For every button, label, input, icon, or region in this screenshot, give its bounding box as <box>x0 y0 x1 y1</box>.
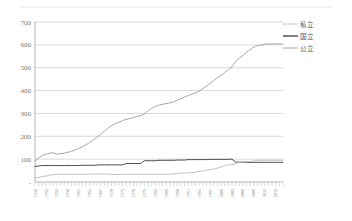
x-axis-tick-label: 1979 <box>142 189 147 197</box>
legend-label-2: 公立 <box>300 44 314 52</box>
y-axis-tick-label: 600 <box>21 41 32 49</box>
legend-label-0: 私立 <box>300 20 314 29</box>
x-axis-tick-label: 1988 <box>175 189 180 197</box>
x-axis-tick-label: 2009 <box>251 189 256 197</box>
x-axis-tick-label: 1961 <box>76 189 81 197</box>
x-axis-tick-label: 1952 <box>44 189 49 197</box>
y-axis-tick-label: 700 <box>21 19 32 27</box>
x-axis-tick-label: 1985 <box>164 189 169 197</box>
x-axis-tick-label: 1994 <box>197 189 202 197</box>
x-axis-tick-label: 1967 <box>98 189 103 197</box>
series-line-0 <box>35 44 283 161</box>
x-axis-tick-label: 1955 <box>54 189 59 197</box>
y-axis-tick-label: 400 <box>21 87 32 95</box>
x-axis-tick-label: 2012 <box>262 189 267 197</box>
x-axis-tick-label: 1982 <box>153 189 158 197</box>
x-axis-tick-label: 1970 <box>109 189 114 197</box>
x-axis-tick-label: 1973 <box>120 189 125 197</box>
x-axis-tick-label: 2000 <box>219 189 224 197</box>
y-axis-tick-label: 200 <box>21 133 32 141</box>
x-axis-tick-label: 1991 <box>186 189 191 197</box>
x-axis-tick-label: 2015 <box>273 189 278 197</box>
line-chart: -100200300400500600700194919521955195819… <box>0 0 352 221</box>
chart-canvas: -100200300400500600700194919521955195819… <box>0 0 352 221</box>
x-axis-tick-label: 1997 <box>208 189 213 197</box>
x-axis-tick-label: 1958 <box>65 189 70 197</box>
y-axis-tick-label: - <box>29 179 32 187</box>
x-axis-tick-label: 1964 <box>87 189 92 197</box>
x-axis-tick-label: 1949 <box>33 189 38 197</box>
y-axis-tick-label: 300 <box>21 110 32 118</box>
series-line-1 <box>35 159 283 166</box>
x-axis-tick-label: 2006 <box>240 189 245 197</box>
series-line-2 <box>35 160 283 178</box>
y-axis-tick-label: 100 <box>21 156 32 164</box>
x-axis-tick-label: 2003 <box>230 189 235 197</box>
y-axis-tick-label: 500 <box>21 64 32 72</box>
legend-label-1: 国立 <box>300 32 314 41</box>
x-axis-tick-label: 1976 <box>131 189 136 197</box>
